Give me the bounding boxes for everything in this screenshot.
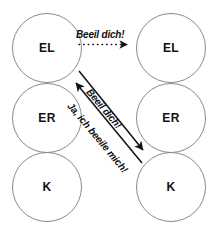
node-circle-top-left: EL [12, 13, 82, 83]
node-label-bottom-right: K [167, 181, 176, 193]
node-circle-bottom-left: K [12, 152, 82, 222]
node-circle-middle-right: ER [136, 83, 206, 153]
node-circle-top-right: EL [136, 13, 206, 83]
node-label-middle-left: ER [38, 112, 55, 124]
diagram-canvas: EL EL ER ER K K Bee [0, 0, 216, 235]
node-label-bottom-left: K [43, 181, 52, 193]
node-circle-middle-left: ER [12, 83, 82, 153]
node-circle-bottom-right: K [136, 152, 206, 222]
node-label-top-right: EL [163, 42, 179, 54]
node-label-middle-right: ER [162, 112, 179, 124]
node-label-top-left: EL [39, 42, 55, 54]
top-arrow-label: Beeil dich! [76, 30, 124, 40]
